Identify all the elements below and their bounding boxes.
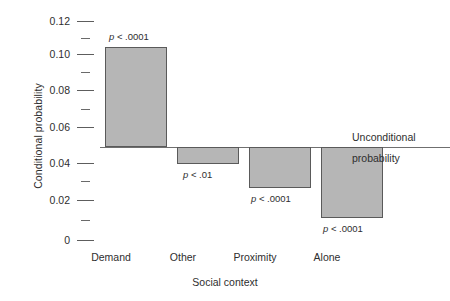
x-tick-label-proximity: Proximity (219, 251, 291, 263)
y-tick-major-012 (77, 21, 94, 22)
plot-area: p < .0001 p < .01 p < .0001 p < .0001 (100, 14, 348, 246)
pvalue-alone: p < .0001 (323, 223, 363, 234)
y-tick-major-004 (77, 163, 94, 164)
y-tick-major-000 (77, 240, 94, 241)
y-tick-minor-009 (81, 72, 90, 73)
y-tick-minor-011 (81, 38, 90, 39)
x-tick-label-alone: Alone (291, 251, 363, 263)
x-axis-title: Social context (0, 276, 450, 288)
pvalue-other: p < .01 (183, 169, 212, 180)
bar-demand[interactable] (105, 47, 167, 147)
y-tick-label-010: 0.10 (30, 49, 70, 59)
x-tick-label-other: Other (147, 251, 219, 263)
bar-other[interactable] (177, 147, 239, 164)
chart-figure: Conditional probability 0.12 0.10 0.08 0… (0, 0, 450, 301)
y-tick-major-008 (77, 90, 94, 91)
y-tick-label-002: 0.02 (30, 195, 70, 205)
pvalue-demand: p < .0001 (109, 31, 149, 42)
pvalue-proximity: p < .0001 (251, 193, 291, 204)
unconditional-label-line1: Unconditional (352, 131, 416, 143)
y-tick-label-012: 0.12 (30, 16, 70, 26)
bar-proximity[interactable] (249, 147, 311, 188)
y-tick-minor-007 (81, 109, 90, 110)
y-tick-major-006 (77, 127, 94, 128)
y-tick-major-010 (77, 54, 94, 55)
y-tick-label-000: 0 (30, 235, 70, 245)
x-tick-label-demand: Demand (75, 251, 147, 263)
y-tick-label-008: 0.08 (30, 85, 70, 95)
unconditional-label-line2: probability (352, 152, 400, 164)
y-tick-minor-001 (81, 220, 90, 221)
y-tick-minor-003 (81, 181, 90, 182)
y-tick-label-006: 0.06 (30, 122, 70, 132)
y-tick-label-004: 0.04 (30, 158, 70, 168)
y-tick-major-002 (77, 200, 94, 201)
